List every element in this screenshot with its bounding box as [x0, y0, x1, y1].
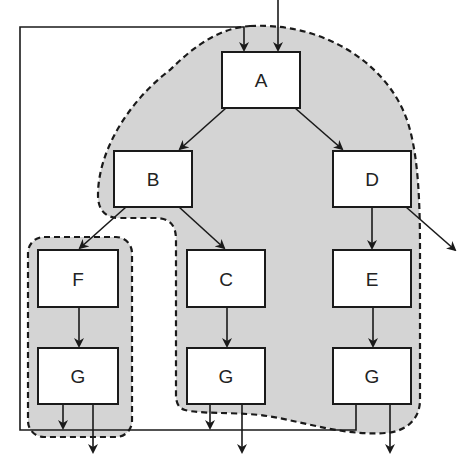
node-c: C	[187, 250, 265, 307]
node-g2: G	[187, 348, 265, 404]
node-e-label: E	[366, 269, 379, 290]
node-b-label: B	[147, 169, 160, 190]
node-g3: G	[333, 348, 411, 404]
node-g3-label: G	[365, 366, 380, 387]
node-d: D	[333, 151, 411, 207]
node-a-label: A	[255, 70, 268, 91]
node-c-label: C	[219, 269, 233, 290]
node-e: E	[333, 250, 411, 307]
node-g1: G	[38, 348, 118, 404]
node-a: A	[222, 52, 300, 108]
node-g1-label: G	[71, 366, 86, 387]
node-b: B	[114, 151, 192, 207]
flow-diagram: A B D F C E G G G	[0, 0, 472, 465]
node-g2-label: G	[219, 366, 234, 387]
node-f: F	[38, 250, 118, 307]
node-d-label: D	[365, 169, 379, 190]
node-f-label: F	[72, 269, 84, 290]
